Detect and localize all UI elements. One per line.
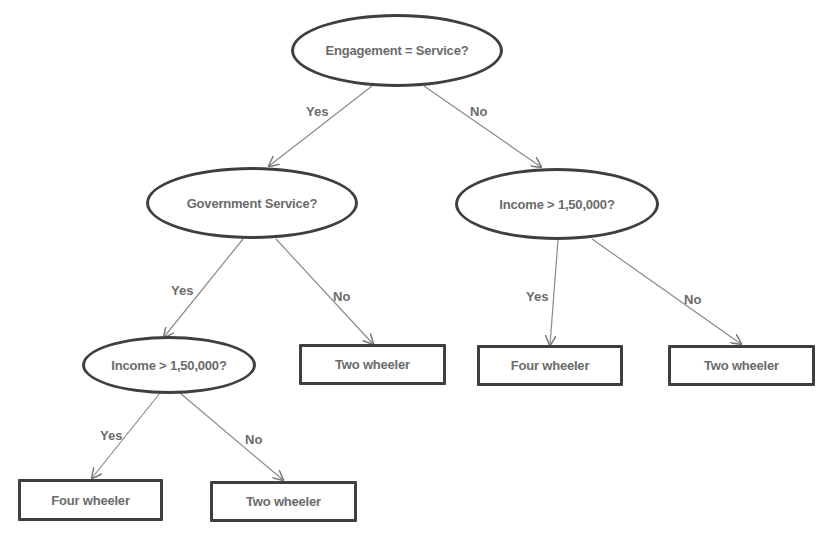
edge-label-gov-no: No bbox=[333, 289, 350, 304]
node-label: Engagement = Service? bbox=[326, 43, 469, 58]
node-label: Income > 1,50,000? bbox=[499, 197, 614, 212]
edge-income-right-to-leaf-no bbox=[592, 239, 741, 344]
decision-tree-diagram: Yes No Yes No Yes No Yes No Engagement =… bbox=[0, 0, 828, 538]
edge-label-income-right-no: No bbox=[684, 292, 701, 307]
node-label: Government Service? bbox=[187, 196, 318, 211]
edge-label-income-left-no: No bbox=[245, 432, 262, 447]
decision-node-income-right: Income > 1,50,000? bbox=[455, 168, 659, 240]
edge-label-income-right-yes: Yes bbox=[526, 289, 548, 304]
decision-node-government-service: Government Service? bbox=[146, 167, 358, 239]
node-label: Four wheeler bbox=[511, 358, 590, 373]
edge-income-right-to-leaf-yes bbox=[550, 240, 558, 345]
decision-node-engagement: Engagement = Service? bbox=[291, 14, 503, 87]
edge-label-root-no: No bbox=[470, 104, 487, 119]
leaf-node-left-no-two-wheeler: Two wheeler bbox=[210, 481, 357, 522]
edge-label-gov-yes: Yes bbox=[171, 283, 193, 298]
leaf-node-right-yes-four-wheeler: Four wheeler bbox=[477, 345, 623, 386]
leaf-node-gov-no-two-wheeler: Two wheeler bbox=[299, 344, 446, 385]
leaf-node-left-yes-four-wheeler: Four wheeler bbox=[18, 479, 163, 521]
node-label: Income > 1,50,000? bbox=[111, 358, 226, 373]
node-label: Four wheeler bbox=[51, 493, 130, 508]
edge-root-to-gov bbox=[269, 86, 372, 166]
edge-gov-to-leaf-gov-no bbox=[276, 239, 373, 344]
edge-income-left-to-leaf-no bbox=[180, 393, 283, 480]
node-label: Two wheeler bbox=[335, 357, 410, 372]
node-label: Two wheeler bbox=[246, 494, 321, 509]
edge-label-root-yes: Yes bbox=[306, 104, 328, 119]
edge-root-to-income-right bbox=[424, 86, 541, 167]
edge-label-income-left-yes: Yes bbox=[100, 428, 122, 443]
decision-node-income-left: Income > 1,50,000? bbox=[82, 336, 256, 394]
node-label: Two wheeler bbox=[704, 358, 779, 373]
leaf-node-right-no-two-wheeler: Two wheeler bbox=[668, 345, 815, 386]
